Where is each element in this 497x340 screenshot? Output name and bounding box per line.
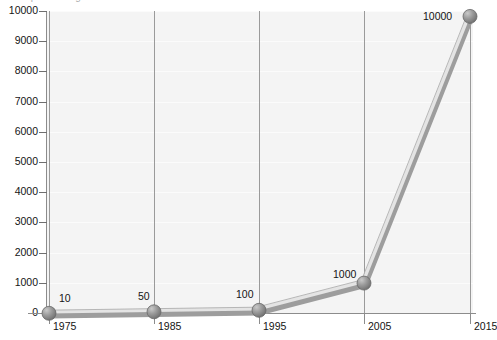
y-axis-tick: [39, 71, 47, 72]
gridline-horizontal: [47, 71, 473, 72]
data-point-label: 50: [138, 291, 150, 302]
gridline-vertical: [259, 11, 260, 313]
gridline-horizontal: [47, 102, 473, 103]
y-axis-tick: [39, 253, 47, 254]
y-axis-label: 7000: [0, 96, 38, 107]
x-axis-label: 2015: [474, 320, 497, 332]
x-axis-tick: [470, 313, 471, 324]
gridline-vertical: [470, 11, 471, 313]
x-axis-line: [28, 313, 476, 314]
chart-container: Exponential growth 10000 9000 8000 7000 …: [0, 0, 497, 340]
y-axis-label: 8000: [0, 65, 38, 76]
gridline-horizontal: [47, 253, 473, 254]
y-axis-tick: [39, 222, 47, 223]
y-axis-tick: [39, 162, 47, 163]
y-axis-tick: [39, 132, 47, 133]
y-axis-tick: [39, 11, 47, 12]
x-axis-label: 1995: [263, 320, 286, 332]
y-axis-label: 10000: [0, 5, 38, 16]
x-axis-tick: [154, 313, 155, 324]
y-axis-label: 3000: [0, 216, 38, 227]
x-axis-label: 2005: [368, 320, 391, 332]
data-point-label: 100: [236, 289, 254, 300]
data-point-label: 10: [59, 293, 71, 304]
data-point-label: 10000: [423, 11, 452, 22]
chart-title: Exponential growth: [19, 0, 106, 2]
gridline-vertical: [154, 11, 155, 313]
y-axis-label: 6000: [0, 126, 38, 137]
plot-area: [47, 11, 473, 313]
y-axis-tick: [39, 192, 47, 193]
gridline-horizontal: [47, 283, 473, 284]
y-axis-tick: [39, 41, 47, 42]
y-axis-label: 2000: [0, 247, 38, 258]
gridline-horizontal: [47, 132, 473, 133]
y-axis-label: 9000: [0, 35, 38, 46]
x-axis-label: 1985: [158, 320, 181, 332]
y-axis-label: 4000: [0, 186, 38, 197]
gridline-horizontal: [47, 162, 473, 163]
gridline-vertical: [49, 11, 50, 313]
x-axis-tick: [49, 313, 50, 324]
x-axis-tick: [364, 313, 365, 324]
data-point-label: 1000: [333, 269, 356, 280]
gridline-horizontal: [47, 11, 473, 12]
y-axis-tick: [39, 102, 47, 103]
gridline-horizontal: [47, 41, 473, 42]
y-axis-label: 1000: [0, 277, 38, 288]
x-axis-label: 1975: [53, 320, 76, 332]
y-axis-label: 5000: [0, 156, 38, 167]
y-axis-tick: [39, 283, 47, 284]
gridline-horizontal: [47, 192, 473, 193]
gridline-horizontal: [47, 222, 473, 223]
gridline-vertical: [364, 11, 365, 313]
x-axis-tick: [259, 313, 260, 324]
